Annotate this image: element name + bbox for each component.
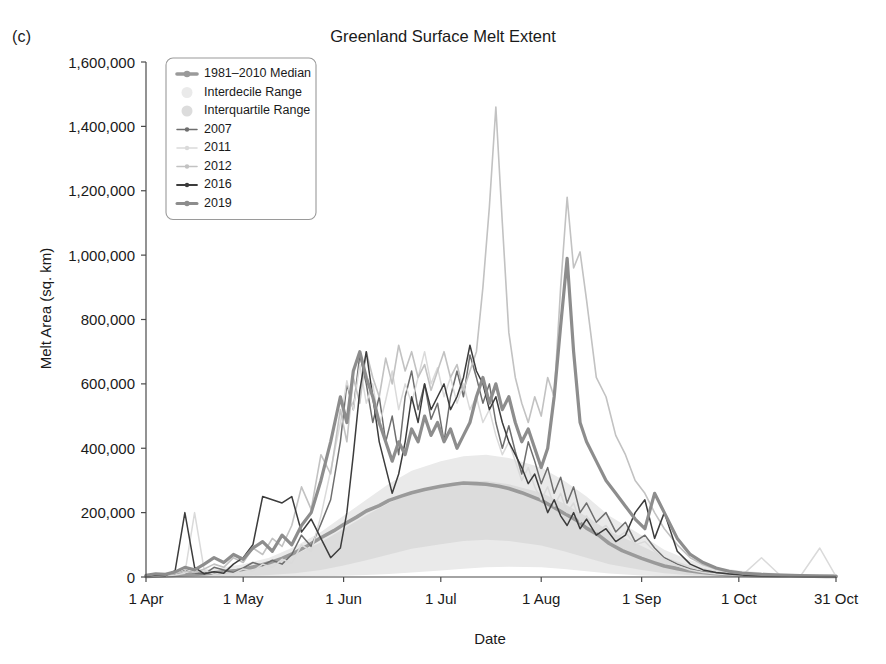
x-tick-label: 1 May — [223, 590, 264, 607]
y-axis-title: Melt Area (sq. km) — [37, 159, 54, 459]
y-tick-label: 0 — [127, 569, 135, 586]
legend-label: 1981–2010 Median — [204, 66, 311, 80]
y-tick-label: 1,000,000 — [68, 247, 135, 264]
legend-label: 2019 — [204, 196, 232, 210]
legend-marker-icon — [185, 127, 189, 131]
x-tick-label: 1 Aug — [522, 590, 560, 607]
x-tick-label: 1 Apr — [128, 590, 163, 607]
y-tick-label: 400,000 — [81, 440, 135, 457]
legend-label: Interquartile Range — [204, 103, 310, 117]
legend-marker-icon — [184, 201, 189, 206]
legend-label: 2007 — [204, 122, 232, 136]
legend-marker-icon — [185, 164, 189, 168]
x-tick-label: 1 Sep — [622, 590, 661, 607]
uncertainty-bands — [146, 455, 836, 577]
legend-label: 2012 — [204, 159, 232, 173]
legend-label: 2016 — [204, 177, 232, 191]
chart-title: Greenland Surface Melt Extent — [0, 27, 886, 46]
x-tick-label: 1 Oct — [721, 590, 758, 607]
x-tick-label: 1 Jun — [325, 590, 362, 607]
legend-swatch-icon — [182, 87, 193, 98]
chart-legend[interactable]: 1981–2010 MedianInterdecile RangeInterqu… — [166, 58, 316, 220]
y-tick-label: 200,000 — [81, 504, 135, 521]
y-tick-label: 1,600,000 — [68, 54, 135, 71]
legend-box — [166, 58, 316, 220]
legend-label: 2011 — [204, 140, 231, 154]
x-tick-label: 1 Jul — [425, 590, 457, 607]
figure-container: (c) Greenland Surface Melt Extent Melt A… — [0, 0, 886, 664]
legend-marker-icon — [185, 146, 189, 150]
line-chart-plot: 0200,000400,000600,000800,0001,000,0001,… — [0, 0, 886, 664]
y-tick-label: 1,200,000 — [68, 182, 135, 199]
x-tick-label: 31 Oct — [814, 590, 859, 607]
y-tick-label: 1,400,000 — [68, 118, 135, 135]
legend-swatch-icon — [182, 106, 193, 117]
legend-label: Interdecile Range — [204, 85, 302, 99]
y-tick-label: 600,000 — [81, 375, 135, 392]
x-axis-title: Date — [140, 630, 840, 647]
legend-marker-icon — [184, 71, 190, 77]
legend-marker-icon — [185, 183, 189, 187]
y-tick-label: 800,000 — [81, 311, 135, 328]
